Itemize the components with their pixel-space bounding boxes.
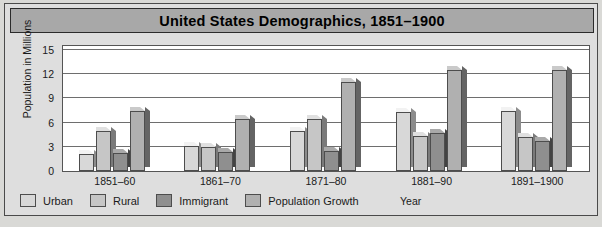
bar-front-face — [235, 119, 250, 171]
bar[interactable] — [341, 82, 356, 171]
bar[interactable] — [413, 136, 428, 171]
legend-swatch — [90, 194, 106, 207]
bar[interactable] — [501, 111, 516, 172]
bar[interactable] — [130, 111, 145, 172]
bar-front-face — [130, 111, 145, 172]
y-tick-label: 12 — [32, 69, 54, 80]
bar-side-face — [356, 78, 361, 167]
bar[interactable] — [307, 119, 322, 171]
legend-label: Urban — [43, 195, 73, 207]
bar-group — [396, 46, 462, 171]
bar-side-face — [462, 66, 467, 167]
bar-front-face — [501, 111, 516, 172]
bar[interactable] — [96, 131, 111, 171]
legend-label: Population Growth — [268, 195, 359, 207]
bar-front-face — [113, 153, 128, 171]
bar[interactable] — [430, 133, 445, 171]
x-tick-label: 1881–90 — [379, 175, 485, 187]
bar-front-face — [518, 137, 533, 171]
bar-front-face — [96, 131, 111, 171]
bar-front-face — [184, 146, 199, 171]
plot-area — [62, 45, 590, 172]
y-tick-label: 6 — [32, 118, 54, 129]
legend-swatch — [156, 194, 172, 207]
x-tick-label: 1891–1900 — [484, 175, 590, 187]
bar-group — [290, 46, 356, 171]
legend-item[interactable]: Urban — [20, 194, 73, 207]
legend-item[interactable]: Immigrant — [156, 194, 228, 207]
y-tick-label: 15 — [32, 45, 54, 56]
bar-front-face — [413, 136, 428, 171]
bar[interactable] — [447, 70, 462, 171]
bar-front-face — [341, 82, 356, 171]
y-tick-label: 0 — [32, 166, 54, 177]
bar-front-face — [535, 141, 550, 171]
bar-front-face — [430, 133, 445, 171]
x-tick-label: 1861–70 — [168, 175, 274, 187]
bar[interactable] — [535, 141, 550, 171]
y-tick-label: 9 — [32, 93, 54, 104]
legend-item[interactable]: Rural — [90, 194, 139, 207]
x-tick-label: 1871–80 — [273, 175, 379, 187]
chart-legend: UrbanRuralImmigrantPopulation Growth — [10, 189, 594, 212]
bar-side-face — [250, 115, 255, 167]
bar[interactable] — [552, 70, 567, 171]
bar-group — [184, 46, 250, 171]
source-note — [6, 218, 566, 227]
bar-front-face — [79, 154, 94, 171]
bar-front-face — [201, 147, 216, 171]
bar-front-face — [218, 152, 233, 171]
bar-front-face — [447, 70, 462, 171]
bar[interactable] — [396, 112, 411, 171]
chart-title-bar: United States Demographics, 1851–1900 — [10, 8, 594, 33]
bar-front-face — [307, 119, 322, 171]
bar[interactable] — [290, 131, 305, 171]
bar[interactable] — [218, 152, 233, 171]
bar-side-face — [145, 107, 150, 168]
legend-item[interactable]: Population Growth — [245, 194, 359, 207]
bar-group — [79, 46, 145, 171]
bar[interactable] — [79, 154, 94, 171]
page-title: United States Demographics, 1851–1900 — [159, 13, 444, 29]
legend-label: Rural — [113, 195, 139, 207]
chart-screenshot: United States Demographics, 1851–1900 Po… — [0, 0, 602, 227]
bar[interactable] — [184, 146, 199, 171]
bar-group — [501, 46, 567, 171]
bar-side-face — [567, 66, 572, 167]
bar[interactable] — [201, 147, 216, 171]
bar-front-face — [396, 112, 411, 171]
x-tick-label: 1851–60 — [62, 175, 168, 187]
chart-card: United States Demographics, 1851–1900 Po… — [4, 3, 598, 216]
bar-front-face — [324, 151, 339, 171]
bar[interactable] — [518, 137, 533, 171]
legend-swatch — [20, 194, 36, 207]
bar-front-face — [290, 131, 305, 171]
legend-swatch — [245, 194, 261, 207]
chart-region: Population in Millions 15129630 1851–601… — [10, 35, 594, 185]
y-tick-label: 3 — [32, 142, 54, 153]
bar-front-face — [552, 70, 567, 171]
bar[interactable] — [113, 153, 128, 171]
legend-label: Immigrant — [179, 195, 228, 207]
bar[interactable] — [324, 151, 339, 171]
bar[interactable] — [235, 119, 250, 171]
